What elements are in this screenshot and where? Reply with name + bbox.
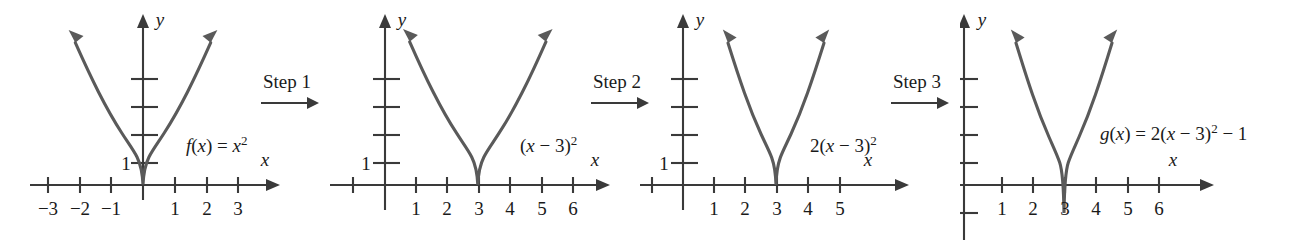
panel-1-xtick-label-1: 1	[170, 198, 180, 219]
panel-3-y-axis-label: y	[694, 9, 705, 30]
panel-4-x-axis	[960, 177, 1214, 193]
panel-3-xtick-label-3: 3	[772, 198, 782, 219]
panel-3-curve	[723, 30, 829, 185]
panel-4-graph: 1 2 3 4 5 6 1 −1 x y g(x) = 2(x − 3)2 − …	[960, 0, 1292, 247]
panel-1-xtick-label-neg2: −2	[70, 198, 90, 219]
panel-4-xtick-label-2: 2	[1028, 198, 1038, 219]
step-1-label: Step 1	[263, 71, 311, 92]
panel-3-equation: 2(x − 3)2	[810, 133, 877, 157]
panel-2-curve	[403, 29, 553, 185]
panel-3-xtick-label-4: 4	[803, 198, 813, 219]
panel-2-xtick-label-4: 4	[505, 198, 515, 219]
panel-4-xtick-label-1: 1	[997, 198, 1007, 219]
panel-2-ytick-label-1: 1	[361, 153, 371, 174]
panel-4-xtick-label-6: 6	[1154, 198, 1164, 219]
panel-2-y-axis-label: y	[396, 9, 407, 30]
panel-4-equation: g(x) = 2(x − 3)2 − 1	[1100, 121, 1247, 145]
panel-3-y-axis	[671, 14, 698, 210]
panel-3-xtick-label-5: 5	[835, 198, 845, 219]
panel-1-y-axis-label: y	[154, 9, 165, 30]
panel-2-xtick-label-3: 3	[474, 198, 484, 219]
panel-4-xtick-label-4: 4	[1091, 198, 1101, 219]
panel-4-xtick-label-3: 3	[1060, 198, 1070, 219]
panel-3-ytick-label-1: 1	[659, 153, 669, 174]
panel-2-xtick-label-2: 2	[442, 198, 452, 219]
panel-1-xtick-label-2: 2	[202, 198, 212, 219]
panel-2-x-axis	[330, 177, 610, 193]
panel-1-ytick-label-1: 1	[121, 153, 131, 174]
panel-2-xtick-label-1: 1	[411, 198, 421, 219]
panel-1-equation: f(x) = x2	[186, 133, 248, 157]
panel-1-xtick-label-3: 3	[233, 198, 243, 219]
panel-4-x-axis-label: x	[1168, 149, 1178, 170]
panel-2-equation: (x − 3)2	[520, 133, 577, 157]
step-1-arrow-icon	[261, 97, 319, 109]
panel-4-y-axis	[960, 14, 978, 240]
step-3-label: Step 3	[893, 71, 941, 92]
transformation-figure: −3 −2 −1 1 2 3 1 x y f(x) = x2 Step 1	[0, 0, 1292, 247]
panel-1-xtick-label-neg1: −1	[101, 198, 121, 219]
step-3-connector: Step 3	[875, 0, 960, 247]
panel-4-y-axis-label: y	[976, 9, 987, 30]
panel-1-xtick-label-neg3: −3	[38, 198, 58, 219]
step-2-label: Step 2	[593, 71, 641, 92]
panel-3-xtick-label-1: 1	[709, 198, 719, 219]
panel-1-x-axis	[30, 177, 280, 193]
panel-3-xtick-label-2: 2	[740, 198, 750, 219]
panel-2-y-axis	[373, 14, 400, 210]
panel-4-xtick-label-5: 5	[1123, 198, 1133, 219]
step-1-connector: Step 1	[245, 0, 330, 247]
step-3-arrow-icon	[891, 97, 949, 109]
panel-2-xtick-label-5: 5	[537, 198, 547, 219]
